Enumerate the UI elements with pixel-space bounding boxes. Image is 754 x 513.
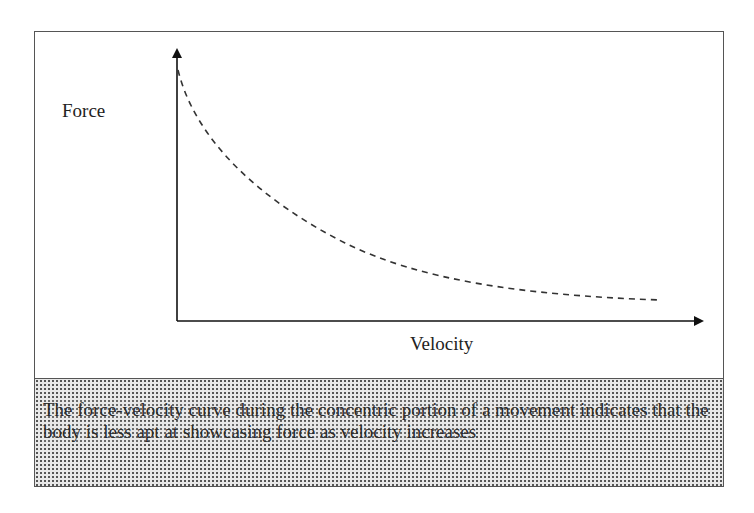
x-axis-label: Velocity [410, 333, 473, 355]
force-velocity-curve [178, 70, 660, 300]
caption-box: The force-velocity curve during the conc… [34, 378, 724, 487]
y-axis-label: Force [62, 100, 105, 122]
caption-text: The force-velocity curve during the conc… [43, 399, 709, 442]
